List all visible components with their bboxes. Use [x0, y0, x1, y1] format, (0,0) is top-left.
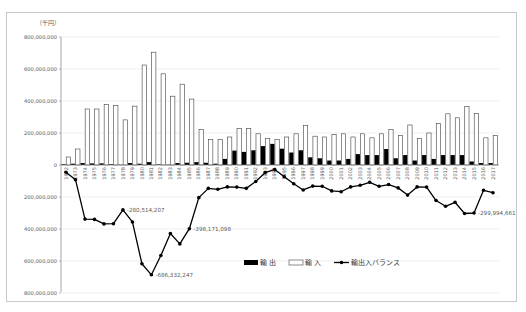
- balance-point: [358, 184, 362, 188]
- balance-point: [434, 199, 438, 203]
- y-axis: 800,000,000600,000,000400,000,000200,000…: [24, 19, 61, 296]
- import-bar: [417, 139, 421, 165]
- x-tick-label: 2016: [480, 167, 486, 180]
- x-tick-label: 2002: [347, 167, 353, 180]
- balance-point: [159, 254, 163, 258]
- import-bar: [455, 118, 459, 165]
- legend: 輸 出輸 入輸出入バランス: [244, 258, 400, 267]
- balance-point: [102, 222, 106, 226]
- balance-point: [368, 180, 372, 184]
- import-bar: [265, 139, 269, 165]
- x-tick-label: 1989: [224, 167, 230, 180]
- balance-point: [311, 184, 315, 188]
- x-tick-label: 1986: [195, 167, 201, 180]
- balance-point: [150, 273, 154, 277]
- balance-point: [482, 188, 486, 192]
- export-bar: [194, 162, 198, 165]
- x-tick-label: 2000: [328, 167, 334, 180]
- legend-import-label: 輸 入: [305, 258, 321, 267]
- x-tick-label: 1983: [167, 167, 173, 180]
- x-tick-label: 1978: [120, 167, 126, 180]
- import-bar: [133, 106, 137, 165]
- export-bar: [346, 159, 350, 165]
- import-bar: [436, 123, 440, 165]
- balance-point: [244, 187, 248, 191]
- y-tick-label: 800,000,000: [24, 34, 57, 40]
- import-bar: [123, 120, 127, 165]
- balance-point: [207, 187, 211, 191]
- x-tick-label: 2012: [442, 167, 448, 180]
- x-tick-label: 1992: [252, 167, 258, 180]
- x-tick-label: 1975: [91, 167, 97, 180]
- export-bar: [242, 152, 246, 165]
- balance-point: [491, 191, 495, 195]
- x-tick-label: 1990: [233, 167, 239, 180]
- import-bar: [246, 129, 250, 165]
- export-bar: [356, 154, 360, 165]
- x-tick-label: 1982: [157, 167, 163, 180]
- balance-point: [415, 185, 419, 189]
- export-bar: [327, 161, 331, 165]
- balance-point: [216, 188, 220, 192]
- legend-export-swatch: [244, 260, 258, 265]
- balance-point: [320, 184, 324, 188]
- import-bar: [190, 99, 194, 165]
- import-bar: [484, 138, 488, 165]
- x-tick-label: 2001: [338, 167, 344, 180]
- export-bar: [223, 159, 227, 165]
- balance-point: [121, 208, 125, 212]
- x-tick-label: 1985: [186, 167, 192, 180]
- import-bar: [104, 105, 108, 165]
- import-bar: [360, 134, 364, 165]
- export-bar: [470, 161, 474, 165]
- export-bar: [422, 155, 426, 165]
- import-bar: [171, 96, 175, 165]
- legend-balance-label: 輸出入バランス: [351, 258, 400, 267]
- export-bar: [441, 155, 445, 165]
- balance-point: [273, 168, 277, 172]
- y-tick-label: 400,000,000: [24, 98, 57, 104]
- x-tick-label: 1988: [214, 167, 220, 180]
- import-bar: [66, 157, 70, 165]
- import-bar: [180, 84, 184, 165]
- import-bar: [152, 52, 156, 165]
- x-tick-label: 1981: [148, 167, 154, 180]
- balance-point: [64, 170, 68, 174]
- balance-point: [282, 175, 286, 179]
- import-bar: [398, 135, 402, 165]
- x-tick-label: 2009: [414, 167, 420, 180]
- balance-point: [131, 220, 135, 224]
- import-bar: [237, 129, 241, 165]
- balance-point: [444, 204, 448, 208]
- export-bar: [432, 159, 436, 165]
- x-tick-label: 2005: [376, 167, 382, 180]
- import-bar: [351, 137, 355, 165]
- import-bar: [341, 134, 345, 165]
- export-bar: [270, 144, 274, 165]
- import-bar: [199, 129, 203, 165]
- y-tick-label: 200,000,000: [24, 130, 57, 136]
- export-bar: [365, 155, 369, 165]
- y-axis-unit: （千円）: [36, 19, 60, 27]
- balance-point: [396, 186, 400, 190]
- balance-point: [453, 200, 457, 204]
- balance-point: [254, 180, 258, 184]
- balance-point: [226, 185, 230, 189]
- balance-line-series: [64, 168, 495, 277]
- balance-point: [349, 185, 353, 189]
- balance-point: [301, 188, 305, 192]
- import-bar: [303, 125, 307, 165]
- import-bar: [284, 137, 288, 165]
- x-tick-label: 2004: [366, 167, 372, 180]
- import-bar: [379, 134, 383, 165]
- x-tick-label: 1984: [176, 167, 182, 180]
- balance-point: [140, 262, 144, 266]
- data-label: -299,994,661: [478, 210, 516, 216]
- balance-point: [387, 183, 391, 187]
- x-tick-label: 1974: [82, 167, 88, 180]
- import-bar: [313, 136, 317, 165]
- import-bar: [114, 105, 118, 165]
- y-tick-label: 400,000,000: [24, 226, 57, 232]
- x-tick-label: 1977: [110, 167, 116, 180]
- import-bar: [322, 137, 326, 165]
